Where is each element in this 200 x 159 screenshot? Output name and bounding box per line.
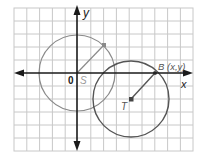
y-axis-label: y bbox=[82, 6, 90, 20]
coordinate-plane-diagram: y x 0 S T B (x,y) bbox=[0, 0, 200, 159]
center-s-label: S bbox=[80, 75, 87, 86]
x-axis-left-arrow-icon bbox=[14, 70, 24, 77]
point-b-label: B (x,y) bbox=[158, 61, 185, 72]
origin-label: 0 bbox=[68, 75, 74, 86]
y-axis-down-arrow-icon bbox=[74, 141, 81, 151]
center-t-point bbox=[129, 97, 134, 102]
grid bbox=[14, 8, 193, 151]
y-axis-up-arrow-icon bbox=[74, 5, 81, 15]
circle-s-point bbox=[102, 43, 106, 47]
center-t-label: T bbox=[121, 101, 128, 112]
x-axis-label: x bbox=[180, 78, 187, 90]
